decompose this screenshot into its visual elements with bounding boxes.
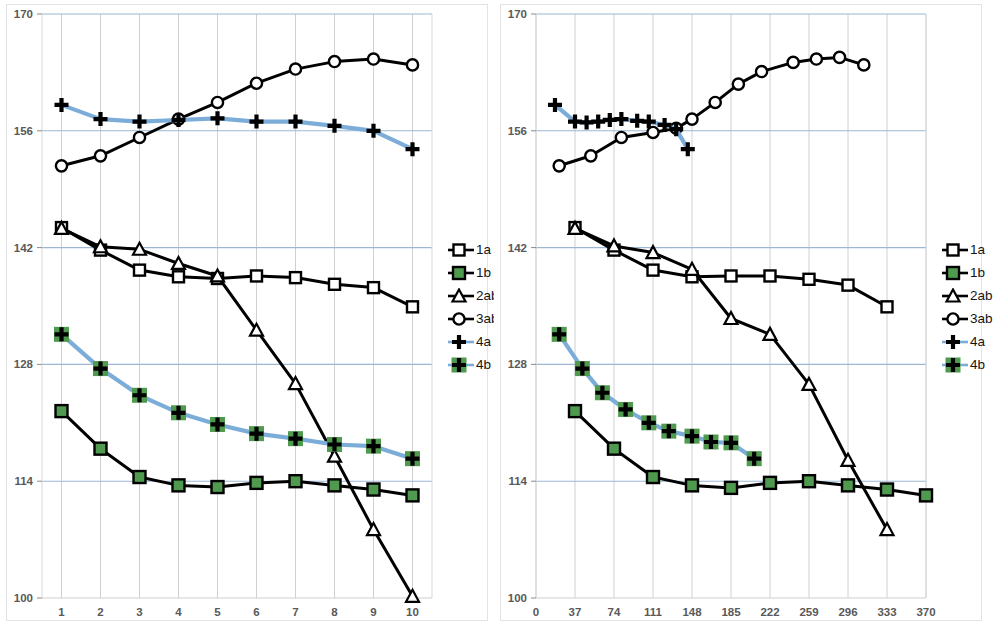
marker-1b	[647, 471, 659, 483]
marker-4a	[94, 112, 108, 126]
marker-1a	[648, 265, 659, 276]
y-tick-label: 128	[14, 358, 34, 370]
marker-3ab	[756, 66, 767, 77]
y-tick-label: 100	[508, 592, 527, 604]
marker-1b	[764, 477, 776, 489]
marker-2ab	[842, 454, 855, 466]
marker-3ab	[329, 56, 340, 67]
y-tick-label: 142	[508, 242, 527, 254]
legend-item-3ab[interactable]: 3ab	[942, 307, 993, 330]
marker-3ab	[585, 150, 596, 161]
legend-item-1b[interactable]: 1b	[448, 261, 499, 284]
legend-item-3ab[interactable]: 3ab	[448, 307, 499, 330]
marker-1b	[173, 479, 185, 491]
marker-4a	[406, 142, 420, 156]
series-4a	[548, 98, 695, 156]
legend-key-3ab	[448, 311, 474, 327]
marker-1b	[251, 477, 263, 489]
marker-4a	[452, 335, 466, 349]
legend-label-4b: 4b	[970, 358, 985, 372]
marker-4a	[614, 112, 628, 126]
series-3ab	[554, 52, 870, 172]
legend-marker-4b	[448, 357, 474, 373]
legend-item-2ab[interactable]: 2ab	[942, 284, 993, 307]
legend-item-4b[interactable]: 4b	[448, 353, 499, 376]
x-tick-label: 148	[682, 606, 702, 618]
marker-1b	[569, 405, 581, 417]
legend-item-2ab[interactable]: 2ab	[448, 284, 499, 307]
x-tick-label: 333	[877, 606, 896, 618]
marker-1b	[212, 481, 224, 493]
series-line-4a	[62, 105, 413, 149]
marker-1b	[453, 267, 465, 279]
series-4b	[54, 327, 420, 466]
y-tick-label: 114	[508, 475, 527, 487]
gridlines	[536, 14, 926, 598]
y-tick-label: 170	[14, 8, 33, 20]
legend-marker-3ab	[448, 311, 474, 327]
marker-3ab	[858, 59, 869, 70]
legend-marker-4a	[942, 334, 968, 350]
marker-1a	[726, 270, 737, 281]
legend-key-1b	[942, 265, 968, 281]
legend-label-4a: 4a	[970, 335, 985, 349]
marker-1b	[947, 267, 959, 279]
legend-label-2ab: 2ab	[970, 289, 993, 303]
marker-1a	[948, 244, 959, 255]
legend-marker-1b	[942, 265, 968, 281]
gridlines	[42, 14, 432, 598]
marker-1b	[290, 475, 302, 487]
marker-3ab	[811, 53, 822, 64]
y-axis-labels: 100114128142156170	[508, 8, 536, 604]
line-chart-left: 10011412814215617012345678910	[0, 0, 494, 625]
legend-item-1b[interactable]: 1b	[942, 261, 993, 284]
legend-item-4a[interactable]: 4a	[448, 330, 499, 353]
legend-key-1b	[448, 265, 474, 281]
marker-1b	[56, 405, 68, 417]
series-line-4b	[62, 334, 413, 458]
legend-marker-4a	[448, 334, 474, 350]
x-tick-label: 222	[760, 606, 779, 618]
legend-label-4b: 4b	[476, 358, 491, 372]
legend-marker-1a	[942, 242, 968, 258]
legend-item-1a[interactable]: 1a	[942, 238, 993, 261]
x-tick-label: 2	[97, 606, 103, 618]
series-line-2ab	[62, 228, 413, 596]
y-tick-label: 156	[14, 125, 33, 137]
marker-1a	[368, 282, 379, 293]
series-line-3ab	[62, 59, 413, 166]
legend-right: 1a1b2ab3ab4a4b	[942, 238, 993, 376]
legend-key-4b	[942, 357, 968, 373]
marker-2ab	[406, 590, 419, 602]
marker-1b	[407, 489, 419, 501]
legend-marker-2ab	[448, 288, 474, 304]
marker-1b	[881, 484, 893, 496]
marker-1a	[407, 301, 418, 312]
x-tick-label: 1	[58, 606, 65, 618]
marker-3ab	[95, 150, 106, 161]
legend-key-4a	[942, 334, 968, 350]
marker-3ab	[368, 53, 379, 64]
x-tick-label: 370	[916, 606, 935, 618]
x-tick-label: 7	[292, 606, 298, 618]
legend-key-3ab	[942, 311, 968, 327]
y-tick-label: 170	[508, 8, 527, 20]
series-2ab	[55, 222, 419, 602]
x-tick-label: 185	[721, 606, 741, 618]
legend-label-1a: 1a	[970, 243, 985, 257]
x-axis-labels: 03774111148185222259296333370	[533, 606, 936, 618]
y-axis-labels: 100114128142156170	[14, 8, 42, 604]
legend-item-4a[interactable]: 4a	[942, 330, 993, 353]
x-tick-label: 8	[331, 606, 338, 618]
legend-item-4b[interactable]: 4b	[942, 353, 993, 376]
marker-3ab	[251, 78, 262, 89]
marker-3ab	[290, 63, 301, 74]
marker-3ab	[453, 313, 464, 324]
series-line-1a	[62, 228, 413, 307]
marker-3ab	[212, 97, 223, 108]
legend-label-1a: 1a	[476, 243, 491, 257]
marker-1b	[368, 484, 380, 496]
legend-item-1a[interactable]: 1a	[448, 238, 499, 261]
marker-3ab	[616, 132, 627, 143]
series-1b	[56, 405, 419, 501]
